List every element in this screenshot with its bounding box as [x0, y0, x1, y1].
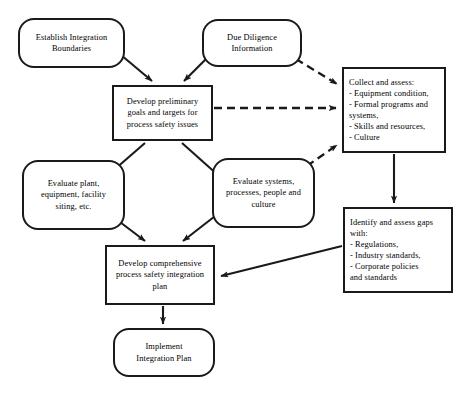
- node-establish-integration-boundaries[interactable]: Establish Integration Boundaries: [18, 18, 125, 68]
- node-evaluate-plant-equipment[interactable]: Evaluate plant, equipment, facility siti…: [22, 160, 125, 230]
- edge-duediligence-to-collect: [296, 59, 337, 84]
- node-collect-and-assess[interactable]: Collect and assess: - Equipment conditio…: [342, 67, 446, 153]
- node-label: Identify and assess gaps with: - Regulat…: [345, 217, 451, 284]
- node-label: Develop preliminary goals and targets fo…: [123, 96, 202, 129]
- edge-evalsystems-to-collect: [307, 145, 337, 166]
- node-label: Evaluate systems, processes, people and …: [222, 176, 305, 209]
- node-label: Collect and assess: - Equipment conditio…: [344, 77, 444, 144]
- flowchart-canvas: Establish Integration Boundaries Due Dil…: [0, 0, 460, 400]
- node-implement-integration-plan[interactable]: Implement Integration Plan: [113, 328, 215, 377]
- node-develop-preliminary-goals[interactable]: Develop preliminary goals and targets fo…: [112, 85, 213, 141]
- node-develop-comprehensive-plan[interactable]: Develop comprehensive process safety int…: [105, 245, 215, 305]
- node-evaluate-systems-processes[interactable]: Evaluate systems, processes, people and …: [212, 158, 315, 228]
- edge-boundaries-to-goals: [121, 55, 152, 81]
- node-label: Develop comprehensive process safety int…: [112, 258, 208, 291]
- edge-gaps-to-plan: [221, 246, 342, 276]
- node-due-diligence-information[interactable]: Due Diligence Information: [202, 19, 302, 67]
- node-label: Implement Integration Plan: [132, 341, 195, 363]
- node-label: Evaluate plant, equipment, facility siti…: [37, 178, 110, 211]
- node-label: Establish Integration Boundaries: [32, 32, 112, 54]
- node-label: Due Diligence Information: [223, 32, 281, 54]
- node-identify-and-assess-gaps[interactable]: Identify and assess gaps with: - Regulat…: [343, 207, 453, 293]
